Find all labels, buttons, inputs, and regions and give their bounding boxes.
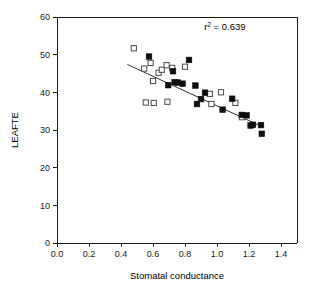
data-point-open-square — [218, 90, 223, 95]
data-point-open-square — [142, 66, 147, 71]
x-axis-title: Stomatal conductance — [130, 270, 224, 281]
axis-tick-labels: 01020304050600.00.20.40.60.81.01.21.4 — [40, 12, 287, 259]
data-point-open-square — [209, 101, 214, 106]
x-tick-label: 0.0 — [51, 249, 64, 259]
x-tick-label: 0.2 — [83, 249, 96, 259]
y-tick-label: 30 — [40, 125, 50, 135]
data-point-filled-square — [146, 54, 152, 60]
y-tick-label: 10 — [40, 201, 50, 211]
y-axis-title: LEAFTE — [9, 112, 20, 148]
data-point-open-square — [164, 63, 169, 68]
data-point-open-square — [165, 99, 170, 104]
data-point-filled-square — [165, 82, 171, 88]
x-tick-label: 0.6 — [147, 249, 160, 259]
data-point-filled-square — [258, 122, 264, 128]
y-tick-label: 20 — [40, 163, 50, 173]
x-tick-label: 1.4 — [275, 249, 288, 259]
chart-annotations: r2 = 0.639 — [204, 21, 245, 33]
plot-canvas: 01020304050600.00.20.40.60.81.01.21.4 St… — [0, 0, 314, 300]
data-point-filled-square — [250, 122, 256, 128]
scatter-plot-figure: 01020304050600.00.20.40.60.81.01.21.4 St… — [0, 0, 314, 300]
data-point-filled-square — [186, 57, 192, 63]
data-point-filled-square — [198, 96, 204, 102]
y-tick-label: 40 — [40, 88, 50, 98]
data-point-open-square — [182, 64, 187, 69]
x-tick-label: 1.0 — [211, 249, 224, 259]
y-tick-label: 0 — [45, 238, 50, 248]
y-tick-label: 60 — [40, 12, 50, 22]
data-point-filled-square — [202, 90, 208, 96]
data-point-open-square — [150, 78, 155, 83]
data-point-filled-square — [170, 68, 176, 74]
data-point-filled-square — [220, 107, 226, 113]
data-point-open-square — [148, 60, 153, 65]
x-tick-label: 0.8 — [179, 249, 192, 259]
axes — [57, 17, 297, 243]
y-tick-label: 50 — [40, 50, 50, 60]
data-point-filled-square — [229, 96, 235, 102]
data-point-open-square — [143, 100, 148, 105]
x-tick-label: 0.4 — [115, 249, 128, 259]
data-point-open-square — [151, 100, 156, 105]
data-points — [131, 46, 264, 137]
data-point-filled-square — [244, 113, 250, 119]
axis-ticks — [53, 17, 281, 247]
data-point-filled-square — [259, 131, 265, 137]
data-point-filled-square — [193, 83, 199, 89]
r-squared-annotation: r2 = 0.639 — [204, 21, 245, 33]
data-point-open-square — [131, 46, 136, 51]
data-point-filled-square — [180, 81, 186, 87]
x-tick-label: 1.2 — [243, 249, 256, 259]
